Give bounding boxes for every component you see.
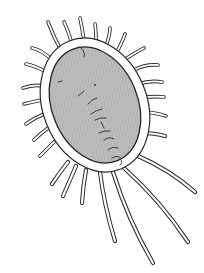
organism-illustration bbox=[0, 0, 204, 273]
nucleus-dot bbox=[94, 84, 96, 86]
